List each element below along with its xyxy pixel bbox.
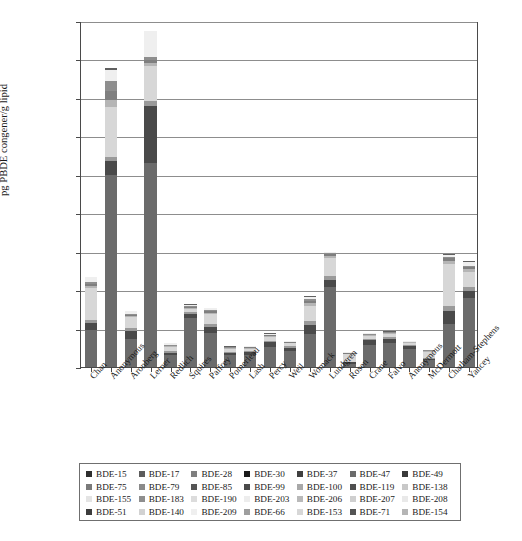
legend-item[interactable]: BDE-75 <box>86 481 139 494</box>
bar-segment <box>105 91 117 100</box>
legend-item[interactable]: BDE-119 <box>350 481 403 494</box>
legend-swatch-icon <box>191 496 197 502</box>
legend-item[interactable]: BDE-17 <box>139 468 192 481</box>
legend-item[interactable]: BDE-140 <box>139 506 192 519</box>
bars-layer <box>81 22 477 367</box>
legend-swatch-icon <box>191 509 197 515</box>
legend-label: BDE-183 <box>149 493 184 506</box>
bar-womack[interactable] <box>304 296 316 367</box>
legend-item[interactable]: BDE-85 <box>191 481 244 494</box>
legend-swatch-icon <box>402 484 408 490</box>
legend-item[interactable]: BDE-79 <box>139 481 192 494</box>
legend-item[interactable]: BDE-206 <box>297 493 350 506</box>
bar-segment <box>264 347 276 367</box>
bar-segment <box>85 288 97 320</box>
legend-item[interactable]: BDE-138 <box>402 481 455 494</box>
legend-swatch-icon <box>139 509 145 515</box>
legend-swatch-icon <box>139 471 145 477</box>
legend-item[interactable]: BDE-99 <box>244 481 297 494</box>
bar-segment <box>144 66 156 101</box>
legend-item[interactable]: BDE-28 <box>191 468 244 481</box>
legend-item[interactable]: BDE-190 <box>191 493 244 506</box>
legend-label: BDE-207 <box>360 493 395 506</box>
legend-item[interactable]: BDE-208 <box>402 493 455 506</box>
bar-percy[interactable] <box>264 333 276 367</box>
legend-swatch-icon <box>297 509 303 515</box>
legend-label: BDE-51 <box>96 506 127 519</box>
legend-label: BDE-203 <box>254 493 289 506</box>
bar-segment <box>304 306 316 321</box>
bar-anonymous[interactable] <box>105 68 117 367</box>
bar-segment <box>105 70 117 81</box>
legend-label: BDE-71 <box>360 506 391 519</box>
legend-label: BDE-190 <box>201 493 236 506</box>
bar-segment <box>324 280 336 288</box>
legend-swatch-icon <box>297 484 303 490</box>
legend-item[interactable]: BDE-51 <box>86 506 139 519</box>
y-axis-title: pg PBDE congener/g lipid <box>0 84 9 196</box>
legend-swatch-icon <box>244 484 250 490</box>
bar-segment <box>85 323 97 330</box>
legend-label: BDE-155 <box>96 493 131 506</box>
legend-label: BDE-154 <box>412 506 447 519</box>
chart-page: pg PBDE congener/g lipid 020,00040,00060… <box>0 0 522 541</box>
legend-item[interactable]: BDE-209 <box>191 506 244 519</box>
y-tick-mark <box>76 368 81 369</box>
bar-segment <box>304 334 316 367</box>
legend-swatch-icon <box>191 484 197 490</box>
bar-segment <box>463 291 475 298</box>
legend-label: BDE-66 <box>254 506 285 519</box>
legend-item[interactable]: BDE-30 <box>244 468 297 481</box>
bar-segment <box>443 311 455 323</box>
legend-item[interactable]: BDE-155 <box>86 493 139 506</box>
legend-grid: BDE-15BDE-17BDE-28BDE-30BDE-37BDE-47BDE-… <box>86 468 455 518</box>
bar-segment <box>105 81 117 92</box>
legend-label: BDE-206 <box>307 493 342 506</box>
legend-item[interactable]: BDE-154 <box>402 506 455 519</box>
bar-segment <box>204 314 216 323</box>
legend-item[interactable]: BDE-183 <box>139 493 192 506</box>
legend-item[interactable]: BDE-15 <box>86 468 139 481</box>
legend-swatch-icon <box>244 496 250 502</box>
bar-chan[interactable] <box>85 277 97 367</box>
legend-item[interactable]: BDE-153 <box>297 506 350 519</box>
legend-label: BDE-209 <box>201 506 236 519</box>
legend-swatch-icon <box>86 484 92 490</box>
bar-segment <box>144 163 156 367</box>
legend-label: BDE-153 <box>307 506 342 519</box>
legend: BDE-15BDE-17BDE-28BDE-30BDE-37BDE-47BDE-… <box>79 463 461 521</box>
bar-segment <box>144 31 156 57</box>
legend-swatch-icon <box>297 496 303 502</box>
legend-swatch-icon <box>350 484 356 490</box>
bar-segment <box>105 107 117 157</box>
legend-label: BDE-99 <box>254 481 285 494</box>
legend-item[interactable]: BDE-66 <box>244 506 297 519</box>
stacked-bar-chart: pg PBDE congener/g lipid 020,00040,00060… <box>0 0 522 455</box>
legend-item[interactable]: BDE-207 <box>350 493 403 506</box>
bar-segment <box>463 272 475 287</box>
legend-item[interactable]: BDE-203 <box>244 493 297 506</box>
legend-item[interactable]: BDE-100 <box>297 481 350 494</box>
legend-label: BDE-28 <box>201 468 232 481</box>
bar-segment <box>85 330 97 367</box>
bar-segment <box>324 258 336 275</box>
legend-swatch-icon <box>86 509 92 515</box>
legend-swatch-icon <box>139 484 145 490</box>
bar-segment <box>125 331 137 339</box>
legend-swatch-icon <box>86 496 92 502</box>
legend-swatch-icon <box>139 496 145 502</box>
legend-label: BDE-100 <box>307 481 342 494</box>
legend-label: BDE-119 <box>360 481 395 494</box>
legend-swatch-icon <box>350 509 356 515</box>
bar-lerner[interactable] <box>144 31 156 368</box>
legend-item[interactable]: BDE-49 <box>402 468 455 481</box>
bar-segment <box>204 327 216 334</box>
bar-segment <box>105 161 117 174</box>
legend-item[interactable]: BDE-37 <box>297 468 350 481</box>
legend-swatch-icon <box>402 471 408 477</box>
legend-label: BDE-138 <box>412 481 447 494</box>
legend-item[interactable]: BDE-71 <box>350 506 403 519</box>
bar-segment <box>443 264 455 305</box>
legend-label: BDE-15 <box>96 468 127 481</box>
legend-item[interactable]: BDE-47 <box>350 468 403 481</box>
